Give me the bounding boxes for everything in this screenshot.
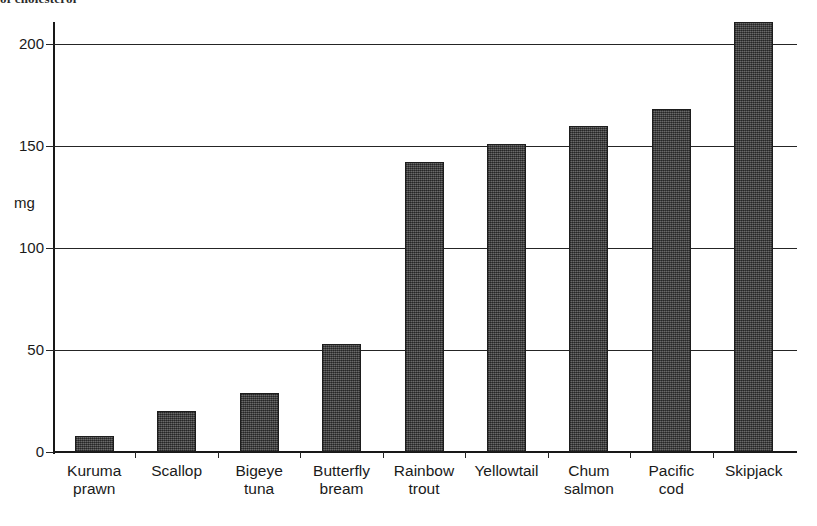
category-label: Bigeyetuna	[218, 462, 300, 498]
x-axis-tick	[465, 452, 466, 458]
category-label-line: salmon	[548, 480, 630, 498]
category-label: Kurumaprawn	[53, 462, 135, 498]
category-label-line: Yellowtail	[474, 462, 538, 479]
bar	[75, 436, 114, 452]
category-label-line: Kuruma	[67, 462, 121, 479]
y-axis-tick-label: 0	[0, 444, 44, 459]
y-axis-tick-label: 100	[0, 240, 44, 255]
category-label-line: tuna	[218, 480, 300, 498]
category-label-line: trout	[383, 480, 465, 498]
y-axis-tick	[46, 452, 54, 453]
category-label-line: Rainbow	[394, 462, 454, 479]
category-label: Rainbowtrout	[383, 462, 465, 498]
y-axis-tick-label: 50	[0, 342, 44, 357]
category-label-line: cod	[630, 480, 712, 498]
plot-area	[53, 22, 795, 452]
category-label: Butterflybream	[300, 462, 382, 498]
category-label: Skipjack	[713, 462, 795, 480]
x-axis-tick	[548, 452, 549, 458]
category-label: Yellowtail	[465, 462, 547, 480]
bar	[405, 162, 444, 452]
bar	[569, 126, 608, 452]
bar	[487, 144, 526, 452]
bar	[652, 109, 691, 452]
x-axis-tick	[713, 452, 714, 458]
bar	[734, 22, 773, 452]
category-label-line: prawn	[53, 480, 135, 498]
x-axis-tick	[383, 452, 384, 458]
category-label-line: Pacific	[649, 462, 695, 479]
bar	[240, 393, 279, 452]
x-axis-tick	[630, 452, 631, 458]
y-axis-tick-label: 200	[0, 36, 44, 51]
x-axis-tick	[135, 452, 136, 458]
category-label-line: Skipjack	[725, 462, 783, 479]
bar	[322, 344, 361, 452]
category-label: Scallop	[135, 462, 217, 480]
x-axis-tick	[218, 452, 219, 458]
category-label: Chumsalmon	[548, 462, 630, 498]
category-label: Pacificcod	[630, 462, 712, 498]
category-label-line: bream	[300, 480, 382, 498]
bar-chart: 050100150200 mg KurumaprawnScallopBigeye…	[0, 0, 817, 526]
category-label-line: Chum	[568, 462, 609, 479]
bar	[157, 411, 196, 452]
category-label-line: Butterfly	[313, 462, 370, 479]
category-label-line: Scallop	[151, 462, 202, 479]
category-label-line: Bigeye	[235, 462, 282, 479]
y-axis-tick-label: 150	[0, 138, 44, 153]
y-axis-unit-label: mg	[14, 195, 35, 210]
x-axis-tick	[300, 452, 301, 458]
